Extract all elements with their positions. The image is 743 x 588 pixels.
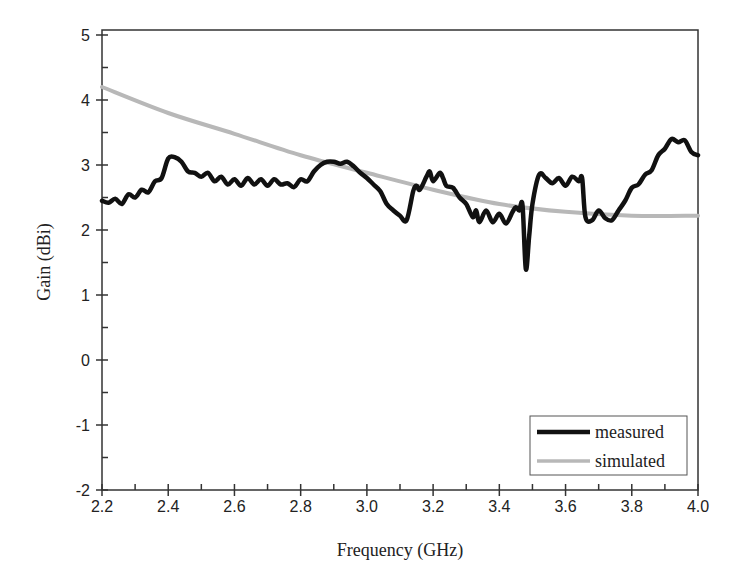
legend: measured simulated	[530, 416, 687, 475]
y-tick-label: -2	[76, 482, 90, 499]
y-tick-label: 5	[81, 27, 90, 44]
series-layer	[102, 87, 698, 270]
gain-chart: -2-1012345 2.22.42.62.83.03.23.43.63.84.…	[0, 0, 743, 588]
series-measured	[102, 139, 698, 270]
y-tick-label: -1	[76, 417, 90, 434]
y-tick-label: 3	[81, 157, 90, 174]
y-tick-label: 2	[81, 222, 90, 239]
y-axis: -2-1012345	[76, 27, 108, 499]
x-tick-label: 3.6	[554, 498, 576, 515]
x-tick-label: 2.4	[157, 498, 179, 515]
legend-label-simulated: simulated	[595, 451, 665, 471]
x-tick-label: 3.8	[621, 498, 643, 515]
y-tick-label: 4	[81, 92, 90, 109]
y-tick-label: 1	[81, 287, 90, 304]
x-tick-label: 3.4	[488, 498, 510, 515]
legend-label-measured: measured	[595, 422, 664, 442]
x-axis-title: Frequency (GHz)	[337, 540, 463, 561]
y-tick-label: 0	[81, 352, 90, 369]
x-tick-label: 4.0	[687, 498, 709, 515]
y-axis-title: Gain (dBi)	[34, 223, 55, 300]
x-tick-label: 2.8	[290, 498, 312, 515]
x-tick-label: 3.0	[356, 498, 378, 515]
x-tick-label: 2.2	[91, 498, 113, 515]
x-tick-label: 3.2	[422, 498, 444, 515]
x-tick-label: 2.6	[223, 498, 245, 515]
x-axis: 2.22.42.62.83.03.23.43.63.84.0	[91, 484, 709, 515]
series-simulated	[102, 87, 698, 216]
